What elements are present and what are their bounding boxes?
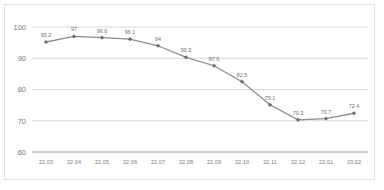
x-axis-tick-label: 22.11	[263, 159, 277, 165]
data-point-markers	[44, 34, 356, 122]
grid-lines	[32, 27, 368, 152]
data-point-marker	[352, 111, 356, 115]
x-axis-tick-label: 22.04	[67, 159, 81, 165]
series-line-group	[46, 36, 354, 119]
y-axis-tick-label: 60	[18, 148, 26, 157]
data-point-label: 90.3	[181, 47, 192, 53]
data-point-marker	[184, 55, 188, 59]
y-axis-tick-labels: 10090807060	[13, 23, 26, 157]
y-axis-tick-label: 100	[13, 23, 26, 32]
data-point-marker	[72, 34, 76, 38]
data-point-label: 72.4	[349, 103, 360, 109]
x-axis-tick-label: 23.02	[347, 159, 361, 165]
data-point-marker	[100, 36, 104, 40]
y-axis-tick-label: 90	[18, 54, 26, 63]
x-axis-tick-label: 22.07	[151, 159, 165, 165]
y-axis-tick-label: 70	[18, 117, 26, 126]
data-point-label: 82.5	[237, 72, 248, 78]
data-point-labels: 95.29796.696.19490.387.682.575.170.370.7…	[41, 26, 360, 115]
data-point-label: 70.7	[321, 109, 332, 115]
data-point-label: 87.6	[209, 56, 220, 62]
x-axis-tick-label: 23.01	[319, 159, 333, 165]
data-point-label: 75.1	[265, 95, 276, 101]
series-line	[46, 36, 354, 119]
data-point-label: 96.1	[125, 29, 136, 35]
data-point-label: 95.2	[41, 32, 52, 38]
x-axis-tick-label: 22.06	[123, 159, 137, 165]
data-point-label: 96.6	[97, 28, 108, 34]
data-point-label: 97	[71, 26, 77, 32]
data-point-marker	[128, 37, 132, 41]
x-axis-tick-labels: 22.0322.0422.0522.0622.0722.0822.0922.10…	[39, 159, 361, 165]
x-axis-tick-label: 22.05	[95, 159, 109, 165]
data-point-marker	[324, 116, 328, 120]
data-point-label: 94	[155, 36, 161, 42]
x-axis-tick-label: 22.08	[179, 159, 193, 165]
data-point-marker	[156, 44, 160, 48]
x-axis-tick-label: 22.03	[39, 159, 53, 165]
data-point-label: 70.3	[293, 110, 304, 116]
line-chart: 10090807060 22.0322.0422.0522.0622.0722.…	[0, 0, 384, 190]
x-axis-tick-label: 22.12	[291, 159, 305, 165]
y-axis-tick-label: 80	[18, 85, 26, 94]
data-point-marker	[44, 40, 48, 44]
x-axis-tick-label: 22.09	[207, 159, 221, 165]
x-axis-tick-label: 22.10	[235, 159, 249, 165]
